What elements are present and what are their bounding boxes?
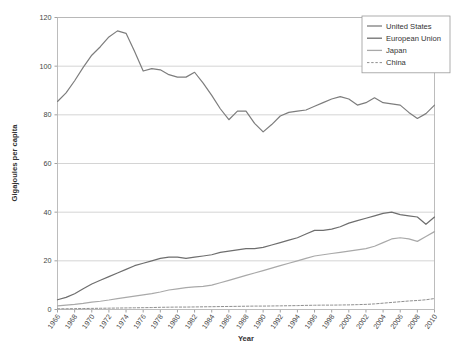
x-tick-label: 1970 (80, 312, 97, 330)
x-tick-label: 1978 (148, 312, 165, 330)
x-axis-tick-labels: 1966196819701972197419761978198019821984… (46, 312, 440, 330)
legend-label-china[interactable]: China (386, 58, 407, 67)
x-tick-label: 1998 (320, 312, 337, 330)
x-tick-label: 2006 (388, 312, 405, 330)
legend-label-japan[interactable]: Japan (386, 46, 407, 55)
x-tick-label: 2004 (371, 312, 388, 330)
x-tick-label: 1966 (46, 312, 63, 330)
y-axis-title: Gigajoules per capita (10, 124, 19, 202)
x-tick-label: 1988 (234, 312, 251, 330)
x-tick-label: 1982 (183, 312, 200, 330)
x-axis-title: Year (238, 334, 254, 343)
chart-container: 020406080100120 196619681970197219741976… (0, 0, 455, 354)
x-tick-label: 1980 (166, 312, 183, 330)
y-axis-tick-labels: 020406080100120 (40, 13, 52, 314)
x-tick-label: 1984 (200, 312, 217, 330)
x-tick-label: 1992 (268, 312, 285, 330)
y-tick-label: 120 (40, 13, 52, 22)
x-tick-label: 2002 (354, 312, 371, 330)
series-line-china (58, 299, 435, 309)
x-tick-label: 2010 (423, 312, 440, 330)
legend-label-european-union[interactable]: European Union (386, 34, 441, 43)
x-tick-label: 2000 (337, 312, 354, 330)
legend: United StatesEuropean UnionJapanChina (362, 16, 450, 73)
x-tick-label: 1968 (63, 312, 80, 330)
y-tick-label: 60 (44, 159, 52, 168)
y-tick-label: 0 (48, 305, 52, 314)
x-tick-label: 1986 (217, 312, 234, 330)
x-tick-label: 1972 (97, 312, 114, 330)
y-tick-label: 100 (40, 62, 52, 71)
x-tick-label: 1974 (114, 312, 131, 330)
x-tick-label: 1994 (285, 312, 302, 330)
series-line-european-union (58, 212, 435, 300)
x-tick-label: 2008 (405, 312, 422, 330)
series-line-japan (58, 232, 435, 306)
y-tick-label: 40 (44, 208, 52, 217)
x-tick-label: 1976 (131, 312, 148, 330)
y-tick-label: 20 (44, 256, 52, 265)
x-axis-ticks (58, 310, 435, 313)
y-tick-label: 80 (44, 110, 52, 119)
legend-label-united-states[interactable]: United States (386, 22, 432, 31)
line-chart: 020406080100120 196619681970197219741976… (0, 0, 455, 354)
x-tick-label: 1996 (303, 312, 320, 330)
x-tick-label: 1990 (251, 312, 268, 330)
